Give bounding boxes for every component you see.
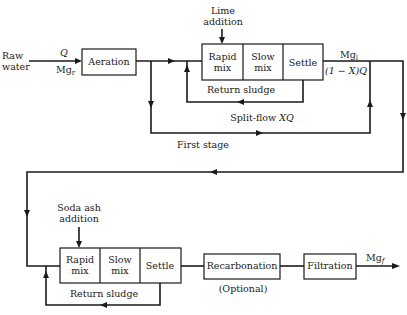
soda-ash-addition-label: Soda ash addition: [57, 202, 101, 224]
svg-text:Soda ash: Soda ash: [57, 202, 101, 213]
stage1-settle: Settle: [289, 57, 318, 68]
stage2-slow-mix: Slow mix: [108, 254, 131, 276]
intermediate-flow-label: (1 − X)Q: [325, 65, 367, 76]
svg-text:Mgf: Mgf: [366, 252, 386, 265]
arrow-down-icon: [76, 241, 82, 248]
arrow-right-icon: [75, 58, 82, 64]
return-sludge-1-label: Return sludge: [207, 84, 276, 95]
first-stage-label: First stage: [177, 139, 229, 150]
stage2-settle: Settle: [146, 260, 175, 271]
arrow-down-icon: [400, 113, 406, 120]
arrow-up-icon: [43, 271, 49, 278]
split-flow-label: Split-flow XQ: [230, 112, 294, 123]
svg-text:water: water: [2, 61, 30, 72]
mg-final-label: Mgf: [366, 252, 386, 265]
arrow-left-icon: [237, 99, 244, 105]
svg-text:Mgr: Mgr: [56, 64, 76, 77]
arrow-left-icon: [210, 169, 217, 175]
svg-text:mix: mix: [111, 265, 129, 276]
recarbonation-label: Recarbonation: [207, 260, 278, 271]
mg-intermediate-label: Mgl: [340, 49, 359, 62]
flow-q-label: Q: [60, 47, 68, 58]
arrow-right-icon: [392, 263, 400, 269]
lime-addition-label: Lime addition: [203, 5, 243, 27]
return-sludge-2-label: Return sludge: [70, 288, 139, 299]
svg-text:addition: addition: [203, 16, 243, 27]
svg-text:Rapid: Rapid: [66, 254, 94, 265]
lime-soda-softening-flow-diagram: Raw water Q Mgr Aeration Lime addition R…: [0, 0, 407, 315]
arrow-down-icon: [24, 210, 30, 217]
svg-text:Mgl: Mgl: [340, 49, 359, 62]
svg-text:mix: mix: [214, 62, 232, 73]
svg-text:Lime: Lime: [211, 5, 235, 16]
filtration-label: Filtration: [307, 260, 352, 271]
arrow-down-icon: [219, 37, 225, 44]
stage1-slow-mix: Slow mix: [251, 51, 274, 73]
aeration-label: Aeration: [87, 56, 129, 67]
svg-text:Slow: Slow: [108, 254, 131, 265]
svg-text:Rapid: Rapid: [208, 51, 236, 62]
svg-text:mix: mix: [254, 62, 272, 73]
arrow-right-icon: [256, 130, 263, 136]
raw-water-label: Raw water: [2, 50, 30, 72]
arrow-left-icon: [100, 302, 107, 308]
arrow-right-icon: [168, 58, 175, 64]
svg-text:addition: addition: [59, 213, 99, 224]
optional-note: (Optional): [219, 283, 268, 294]
arrow-up-icon: [184, 65, 190, 72]
mg-raw-label: Mgr: [56, 64, 76, 77]
svg-text:Raw: Raw: [2, 50, 23, 61]
svg-text:Slow: Slow: [251, 51, 274, 62]
arrow-up-icon: [367, 100, 373, 107]
svg-text:mix: mix: [71, 265, 89, 276]
arrow-down-icon: [148, 101, 154, 108]
